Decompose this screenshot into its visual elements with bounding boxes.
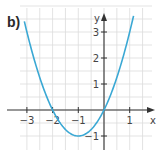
x-axis-label: x <box>150 115 156 126</box>
parabola-chart: xy −3−2−11−1123 <box>0 0 161 153</box>
y-tick-label: 2 <box>93 53 99 64</box>
x-axis-arrow-icon <box>147 107 155 113</box>
y-axis-label: y <box>94 13 100 24</box>
x-tick-label: 1 <box>127 115 133 126</box>
y-axis-arrow-icon <box>101 13 107 21</box>
x-tick-label: −3 <box>20 115 35 126</box>
y-tick-label: 3 <box>93 27 99 38</box>
ticks: −3−2−11−1123 <box>20 27 133 142</box>
axes: xy <box>7 13 156 150</box>
x-tick-label: −1 <box>71 115 86 126</box>
y-tick-label: 1 <box>93 79 99 90</box>
